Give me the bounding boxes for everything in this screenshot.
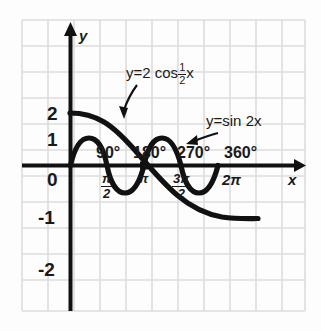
sin-eq-variable: x	[254, 112, 262, 129]
y-tick-1: 1	[47, 130, 58, 149]
fraction-3pi-over-2: 3π 2	[172, 172, 191, 200]
cos-eq-function: cos	[155, 64, 178, 81]
cos-callout-arrow	[119, 85, 137, 119]
x-tick-180-degrees: 180°	[133, 145, 166, 161]
sin-eq-coefficient: 2	[246, 112, 254, 129]
y-tick-minus-2: -2	[38, 260, 55, 279]
cos-eq-variable: x	[186, 64, 194, 81]
cos-eq-coefficient: 2	[142, 64, 150, 81]
y-axis-label: y	[79, 28, 87, 43]
fraction-pi-over-2: π 2	[101, 172, 112, 200]
y-tick-2: 2	[47, 104, 58, 123]
x-tick-pi: π	[139, 172, 148, 185]
graph-canvas	[0, 0, 321, 331]
x-tick-360-degrees: 360°	[224, 145, 257, 161]
x-tick-2pi: 2π	[222, 172, 241, 187]
cos-eq-lhs: y	[126, 64, 134, 81]
x-tick-90-degrees: 90°	[96, 145, 120, 161]
y-tick-0: 0	[47, 170, 58, 189]
y-tick-minus-1: -1	[38, 208, 55, 227]
sine-equation-label: y=sin 2x	[206, 113, 261, 128]
cosine-equation-label: y=2 cos12x	[126, 62, 194, 86]
trig-graph-figure: y x 2 1 0 -1 -2 90° 180° 270° 360° π 2 π…	[0, 0, 321, 331]
sin-eq-function: sin	[222, 112, 241, 129]
x-tick-270-degrees: 270°	[177, 145, 210, 161]
cos-eq-equals: =	[134, 64, 143, 81]
x-tick-3pi-over-2: 3π 2	[172, 172, 191, 200]
x-tick-pi-over-2: π 2	[101, 172, 112, 200]
x-axis-label: x	[288, 172, 296, 187]
sin-eq-equals: =	[214, 112, 223, 129]
sin-eq-lhs: y	[206, 112, 214, 129]
